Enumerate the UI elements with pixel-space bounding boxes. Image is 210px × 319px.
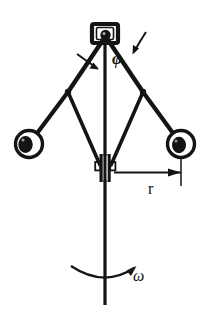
left-upper-arm xyxy=(68,40,103,92)
left-elbow-joint xyxy=(65,89,71,95)
governor-drawing xyxy=(0,0,210,319)
left-lower-link xyxy=(68,92,100,165)
radius-label-r: r xyxy=(148,181,153,197)
governor-figure: φ r ω xyxy=(0,0,210,319)
angle-label-phi: φ xyxy=(112,50,122,67)
right-elbow-joint xyxy=(140,89,146,95)
top-pivot-pin-highlight xyxy=(103,32,106,35)
angle-arc-right-arrow xyxy=(133,32,147,55)
right-lower-link xyxy=(111,92,143,165)
radius-dimension-line xyxy=(114,168,181,176)
angular-velocity-label-omega: ω xyxy=(133,268,144,284)
left-flyball xyxy=(16,131,43,158)
right-flyball xyxy=(168,131,195,158)
angle-arc-left-arrow xyxy=(77,54,99,70)
